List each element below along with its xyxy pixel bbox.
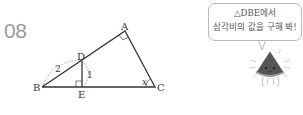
- label-a: A: [120, 21, 129, 32]
- label-b: B: [33, 82, 40, 93]
- label-bd: 2: [55, 64, 61, 74]
- label-x: x: [142, 77, 147, 87]
- label-c: C: [157, 82, 165, 93]
- hint-line-1: △DBE에서: [208, 6, 302, 20]
- watermelon-mascot-icon: [249, 50, 291, 87]
- right-angle-a: [119, 35, 128, 40]
- label-de: 1: [87, 70, 93, 80]
- label-d: D: [77, 51, 85, 62]
- label-e: E: [78, 89, 85, 100]
- right-angle-e: [76, 81, 82, 87]
- hint-line-2: 삼각비의 값을 구해 봐!: [208, 20, 302, 34]
- hint-text: △DBE에서 삼각비의 값을 구해 봐!: [208, 6, 302, 34]
- triangle-abc: [42, 31, 155, 87]
- measure-bd: [43, 60, 80, 85]
